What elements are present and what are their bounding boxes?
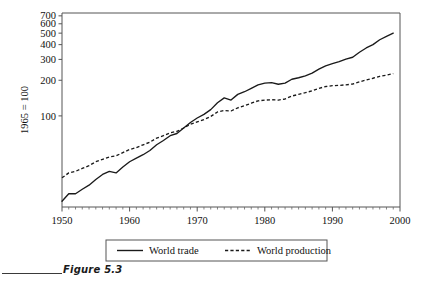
series-line-world-trade (62, 33, 393, 201)
caption-rule (2, 273, 62, 274)
x-tick-label: 1970 (187, 215, 208, 226)
x-tick-label: 1990 (322, 215, 343, 226)
series-line-world-production (62, 74, 393, 178)
x-tick-label: 2000 (390, 215, 411, 226)
y-tick-label: 300 (40, 54, 56, 65)
figure-caption: Figure 5.3 (63, 264, 122, 275)
x-axis-ticks (62, 207, 400, 212)
x-tick-label: 1950 (52, 215, 73, 226)
figure-caption-area: Figure 5.3 (0, 264, 429, 284)
figure-container: 100200300400500600700 195019601970198019… (0, 0, 429, 284)
y-tick-label: 100 (40, 111, 56, 122)
x-tick-label: 1980 (254, 215, 275, 226)
y-axis-title: 1965 = 100 (19, 86, 30, 134)
y-tick-label: 500 (40, 28, 56, 39)
chart-legend: World tradeWorld production (106, 240, 332, 261)
y-tick-label: 200 (40, 75, 56, 86)
line-chart: 100200300400500600700 195019601970198019… (0, 0, 429, 284)
y-axis-ticks (59, 16, 63, 116)
y-tick-label: 700 (40, 10, 56, 21)
y-tick-label: 400 (40, 39, 56, 50)
legend-label: World trade (149, 245, 199, 256)
y-axis-tick-labels: 100200300400500600700 (40, 10, 56, 121)
data-series-layer (62, 33, 393, 201)
x-tick-label: 1960 (119, 215, 140, 226)
legend-label: World production (257, 245, 332, 256)
plot-frame (62, 13, 400, 207)
x-axis-tick-labels: 195019601970198019902000 (52, 215, 411, 226)
